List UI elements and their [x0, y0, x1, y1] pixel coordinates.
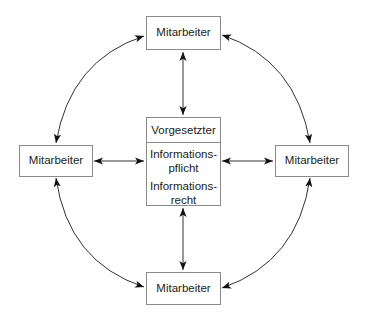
node-right-mitarbeiter: Mitarbeiter: [275, 145, 349, 177]
center-title: Vorgesetzter: [147, 118, 220, 143]
node-label: Mitarbeiter: [29, 154, 83, 168]
arc-bottom-right: [222, 178, 310, 288]
center-line: recht: [147, 193, 220, 207]
diagram-canvas: Mitarbeiter Mitarbeiter Mitarbeiter Mita…: [0, 0, 368, 319]
node-label: Mitarbeiter: [285, 154, 339, 168]
center-body: Informations- pflicht Informations- rech…: [147, 143, 220, 208]
node-label: Mitarbeiter: [156, 26, 210, 40]
node-bottom-mitarbeiter: Mitarbeiter: [146, 272, 221, 305]
node-label: Mitarbeiter: [156, 282, 210, 296]
arc-top-right: [222, 35, 310, 143]
arc-top-left: [56, 36, 144, 143]
center-line: Informations-: [147, 147, 220, 161]
center-line: pflicht: [147, 161, 220, 175]
arc-bottom-left: [56, 178, 144, 287]
node-center-vorgesetzter: Vorgesetzter Informations- pflicht Infor…: [146, 117, 221, 206]
node-top-mitarbeiter: Mitarbeiter: [146, 16, 221, 50]
center-line: Informations-: [147, 179, 220, 193]
node-left-mitarbeiter: Mitarbeiter: [19, 145, 93, 177]
